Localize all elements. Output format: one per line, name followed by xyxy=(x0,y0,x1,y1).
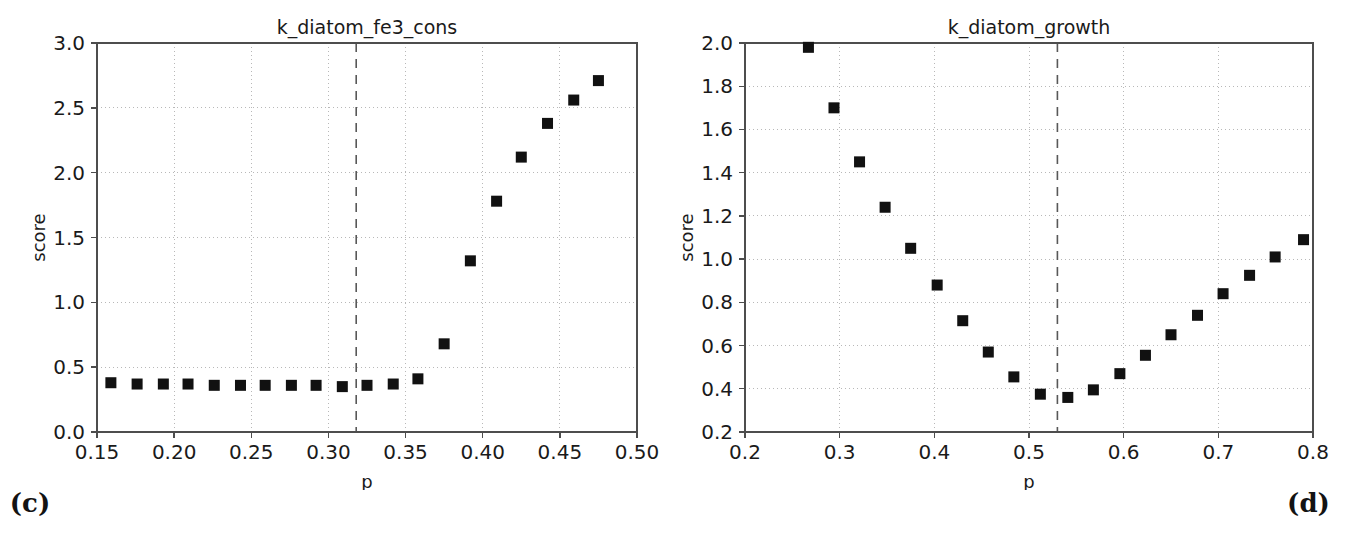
data-point-marker xyxy=(260,380,271,391)
chart-k-diatom-growth: 0.20.30.40.50.60.70.80.20.40.60.81.01.21… xyxy=(680,0,1357,490)
data-point-marker xyxy=(439,338,450,349)
grid-lines xyxy=(745,43,1313,432)
data-point-marker xyxy=(880,202,891,213)
y-tick-label: 2.0 xyxy=(701,31,733,55)
x-tick-label: 0.25 xyxy=(229,440,274,464)
data-point-marker xyxy=(1270,251,1281,262)
data-point-marker xyxy=(362,380,373,391)
data-point-marker xyxy=(983,347,994,358)
y-tick-label: 1.6 xyxy=(701,117,733,141)
x-tick-label: 0.20 xyxy=(152,440,197,464)
data-point-marker xyxy=(957,315,968,326)
y-tick-label: 1.0 xyxy=(701,247,733,271)
data-point-marker xyxy=(593,75,604,86)
data-point-marker xyxy=(235,380,246,391)
data-point-marker xyxy=(1166,329,1177,340)
data-point-marker xyxy=(209,380,220,391)
x-tick-label: 0.35 xyxy=(383,440,428,464)
data-point-marker xyxy=(905,243,916,254)
axis-ticks: 0.20.30.40.50.60.70.80.20.40.60.81.01.21… xyxy=(701,31,1329,464)
y-tick-label: 2.5 xyxy=(53,96,85,120)
data-point-marker xyxy=(516,152,527,163)
y-tick-label: 1.8 xyxy=(701,74,733,98)
data-point-marker xyxy=(828,102,839,113)
data-point-marker xyxy=(803,42,814,53)
panel-caption-d: (d) xyxy=(970,488,1357,518)
data-point-marker xyxy=(105,377,116,388)
x-tick-label: 0.40 xyxy=(460,440,505,464)
y-tick-label: 0.8 xyxy=(701,290,733,314)
data-point-marker xyxy=(1035,389,1046,400)
x-tick-label: 0.2 xyxy=(729,440,761,464)
x-tick-label: 0.45 xyxy=(538,440,583,464)
data-point-marker xyxy=(854,156,865,167)
x-tick-label: 0.7 xyxy=(1202,440,1234,464)
data-point-marker xyxy=(1114,368,1125,379)
data-point-marker xyxy=(491,196,502,207)
data-point-marker xyxy=(1192,310,1203,321)
grid-lines xyxy=(97,43,637,432)
data-point-marker xyxy=(1062,392,1073,403)
plot-frame xyxy=(745,43,1313,432)
data-point-marker xyxy=(542,118,553,129)
y-tick-label: 2.0 xyxy=(53,161,85,185)
x-tick-label: 0.30 xyxy=(306,440,351,464)
data-point-marker xyxy=(1298,234,1309,245)
y-tick-label: 0.0 xyxy=(53,420,85,444)
y-tick-label: 1.0 xyxy=(53,290,85,314)
y-axis-label: score xyxy=(28,213,49,261)
x-tick-label: 0.3 xyxy=(824,440,856,464)
y-tick-label: 1.4 xyxy=(701,161,733,185)
data-point-marker xyxy=(568,95,579,106)
y-tick-label: 0.2 xyxy=(701,420,733,444)
panel-d: 0.20.30.40.50.60.70.80.20.40.60.81.01.21… xyxy=(680,0,1357,546)
x-tick-label: 0.8 xyxy=(1297,440,1329,464)
data-point-marker xyxy=(1088,384,1099,395)
data-point-marker xyxy=(465,255,476,266)
data-point-marker xyxy=(932,280,943,291)
x-tick-label: 0.4 xyxy=(918,440,950,464)
x-tick-label: 0.5 xyxy=(1013,440,1045,464)
data-point-marker xyxy=(412,373,423,384)
data-point-marker xyxy=(158,379,169,390)
data-point-marker xyxy=(1008,371,1019,382)
y-tick-label: 0.6 xyxy=(701,334,733,358)
figure-container: 0.150.200.250.300.350.400.450.500.00.51.… xyxy=(0,0,1357,546)
panel-caption-c: (c) xyxy=(0,488,370,518)
y-axis-label: score xyxy=(680,213,697,261)
data-point-marker xyxy=(1140,350,1151,361)
chart-title: k_diatom_growth xyxy=(948,16,1111,39)
y-tick-label: 0.4 xyxy=(701,377,733,401)
chart-title: k_diatom_fe3_cons xyxy=(277,16,458,39)
y-tick-label: 3.0 xyxy=(53,31,85,55)
data-point-marker xyxy=(1218,288,1229,299)
x-tick-label: 0.50 xyxy=(615,440,660,464)
panel-c: 0.150.200.250.300.350.400.450.500.00.51.… xyxy=(0,0,680,546)
data-point-marker xyxy=(337,381,348,392)
chart-k-diatom-fe3-cons: 0.150.200.250.300.350.400.450.500.00.51.… xyxy=(0,0,680,490)
data-points xyxy=(105,75,604,392)
data-point-marker xyxy=(1244,270,1255,281)
y-tick-label: 0.5 xyxy=(53,355,85,379)
y-tick-label: 1.5 xyxy=(53,226,85,250)
data-points xyxy=(803,42,1309,403)
data-point-marker xyxy=(388,379,399,390)
y-tick-label: 1.2 xyxy=(701,204,733,228)
data-point-marker xyxy=(311,380,322,391)
data-point-marker xyxy=(183,379,194,390)
data-point-marker xyxy=(132,379,143,390)
x-tick-label: 0.6 xyxy=(1108,440,1140,464)
data-point-marker xyxy=(286,380,297,391)
